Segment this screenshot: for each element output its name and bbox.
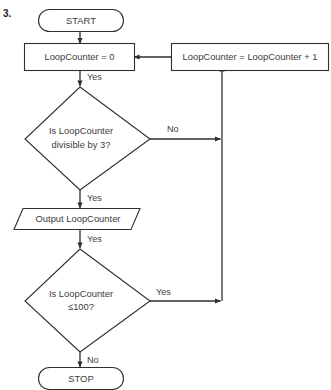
- node-increment-label: LoopCounter = LoopCounter + 1: [183, 51, 318, 62]
- node-decision-divisible-line1: Is LoopCounter: [49, 125, 113, 136]
- node-init-label: LoopCounter = 0: [44, 51, 114, 62]
- node-start-label: START: [66, 15, 96, 26]
- question-index: 3.: [3, 8, 12, 19]
- edge-label-divisible-yes: Yes: [87, 193, 102, 203]
- edge-label-limit-yes: Yes: [156, 287, 171, 297]
- flowchart-figure: START LoopCounter = 0 LoopCounter = Loop…: [0, 0, 331, 390]
- node-decision-limit-line1: Is LoopCounter: [49, 288, 113, 299]
- node-output-label: Output LoopCounter: [36, 213, 121, 224]
- node-decision-divisible-line2: divisible by 3?: [52, 139, 111, 150]
- edge-label-divisible-no: No: [167, 124, 179, 134]
- node-stop-label: STOP: [68, 373, 93, 384]
- edge-label-output-to-limit: Yes: [87, 234, 102, 244]
- edge-label-init-to-decision: Yes: [87, 72, 102, 82]
- edge-label-limit-no: No: [87, 355, 99, 365]
- flowchart-canvas: START LoopCounter = 0 LoopCounter = Loop…: [0, 0, 331, 390]
- node-decision-limit-line2: ≤100?: [68, 301, 94, 312]
